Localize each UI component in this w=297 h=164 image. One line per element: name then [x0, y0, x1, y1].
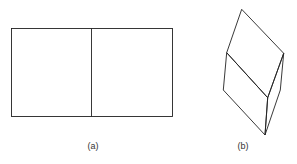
front-face: [223, 53, 267, 135]
panel-a-drawing: [12, 29, 173, 117]
panel-a-label: (a): [88, 141, 99, 151]
panel-b-label: (b): [238, 141, 249, 151]
panel-b-drawing: [223, 9, 283, 135]
outer-rectangle: [12, 29, 173, 117]
side-face: [265, 53, 284, 135]
figure-canvas: [0, 0, 297, 164]
